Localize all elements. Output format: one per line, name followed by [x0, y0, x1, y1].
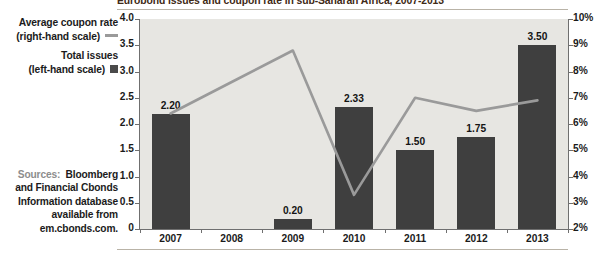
chart-figure: Eurobond issues and coupon rate in sub-S… [0, 0, 607, 256]
right-axis-tick-label: 10% [573, 12, 603, 23]
x-axis-label: 2011 [385, 233, 445, 244]
left-axis-tick-label: 2.0 [108, 117, 134, 128]
title-divider [117, 9, 568, 10]
left-axis-tick [135, 98, 139, 99]
sources-block: Sources: Bloomberg and Financial Cbonds … [0, 168, 118, 235]
coupon-rate-polyline [171, 51, 538, 195]
right-axis-tick-label: 7% [573, 91, 603, 102]
x-axis-label: 2009 [263, 233, 323, 244]
x-axis-label: 2007 [141, 233, 201, 244]
right-axis-tick-label: 6% [573, 117, 603, 128]
right-axis-tick-label: 8% [573, 65, 603, 76]
x-axis-label: 2013 [507, 233, 567, 244]
left-axis-tick [135, 203, 139, 204]
chart-legend: Average coupon rate (right-hand scale) T… [0, 14, 118, 76]
left-axis-tick-label: 0 [108, 222, 134, 233]
x-axis-label: 2012 [446, 233, 506, 244]
left-axis-tick [135, 19, 139, 20]
legend-item-total-issues-line2: (left-hand scale) [0, 63, 118, 77]
right-axis-tick-label: 2% [573, 222, 603, 233]
right-axis-tick-label: 3% [573, 196, 603, 207]
left-axis-tick-label: 2.5 [108, 91, 134, 102]
sources-label: Sources: [18, 169, 60, 180]
legend-line-key-icon [105, 34, 118, 37]
x-axis-label: 2008 [202, 233, 262, 244]
bottom-divider [117, 249, 568, 250]
right-axis-tick-label: 4% [573, 170, 603, 181]
legend-item-total-issues-line1: Total issues [0, 47, 118, 63]
legend-sublabel-coupon-rate: (right-hand scale) [16, 30, 100, 44]
sources-line-4: available from [0, 208, 118, 221]
legend-label-coupon-rate: Average coupon rate [19, 17, 118, 28]
left-axis-tick-label: 1.5 [108, 143, 134, 154]
left-axis-tick-label: 0.5 [108, 196, 134, 207]
legend-label-total-issues: Total issues [61, 50, 118, 61]
x-axis-label: 2010 [324, 233, 384, 244]
chart-title: Eurobond issues and coupon rate in sub-S… [117, 0, 569, 7]
chart-title-band: Eurobond issues and coupon rate in sub-S… [117, 0, 569, 8]
right-axis-tick-label: 9% [573, 38, 603, 49]
line-series [140, 19, 568, 229]
legend-item-coupon-rate-line2: (right-hand scale) [0, 30, 118, 44]
left-axis-tick [135, 150, 139, 151]
x-axis-tick [568, 229, 569, 233]
left-axis-tick [135, 124, 139, 125]
right-axis-tick-label: 5% [573, 143, 603, 154]
sources-line-3: Information database [0, 195, 118, 208]
plot-area: 00.51.01.52.02.53.03.54.0 2%3%4%5%6%7%8%… [140, 19, 568, 229]
left-axis-tick [135, 72, 139, 73]
left-axis-tick-label: 4.0 [108, 12, 134, 23]
left-axis-tick-label: 3.0 [108, 65, 134, 76]
left-axis-tick-label: 3.5 [108, 38, 134, 49]
left-axis-tick [135, 45, 139, 46]
legend-sublabel-total-issues: (left-hand scale) [29, 63, 105, 77]
sources-line-1: Sources: Bloomberg [0, 168, 118, 181]
left-axis-tick [135, 229, 139, 230]
sources-line-5: em.cbonds.com. [0, 222, 118, 235]
sources-line-2: and Financial Cbonds [0, 181, 118, 194]
left-axis-tick [135, 177, 139, 178]
legend-item-coupon-rate-line1: Average coupon rate [0, 14, 118, 30]
x-axis-line [139, 229, 569, 230]
left-axis-tick-label: 1.0 [108, 170, 134, 181]
